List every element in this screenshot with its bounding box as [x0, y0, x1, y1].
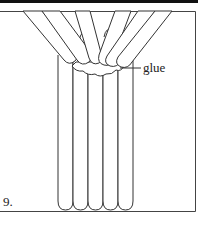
angled-sticks — [23, 11, 172, 67]
glue-label: glue — [143, 60, 166, 75]
vertical-stick — [103, 55, 118, 210]
vertical-stick — [88, 55, 103, 210]
vertical-sticks — [58, 55, 133, 210]
vertical-stick — [73, 55, 88, 210]
craft-diagram: glue 9. — [0, 0, 198, 226]
step-number: 9. — [3, 194, 13, 209]
vertical-stick — [58, 55, 73, 210]
vertical-stick — [118, 55, 133, 210]
